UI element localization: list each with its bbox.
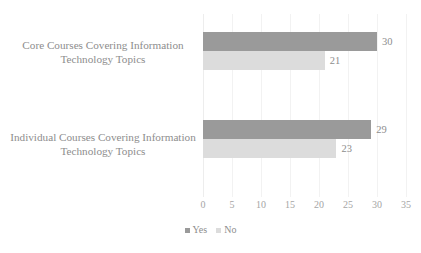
x-tick-label-25: 25 — [343, 198, 353, 211]
bar-chart: Core Courses Covering Information Techno… — [0, 0, 421, 253]
bar-value-yes-core-courses: 30 — [382, 32, 393, 51]
bar-value-no-core-courses: 21 — [330, 51, 341, 70]
category-label-individual-courses: Individual Courses Covering Information … — [8, 130, 198, 158]
x-tick-label-35: 35 — [401, 198, 411, 211]
x-tick-label-30: 30 — [372, 198, 382, 211]
x-tick-label-5: 5 — [230, 198, 235, 211]
legend-label-yes: Yes — [193, 224, 208, 236]
legend-label-no: No — [224, 224, 236, 236]
legend-item-yes[interactable]: Yes — [185, 224, 208, 236]
bar-yes-core-courses[interactable] — [203, 32, 377, 51]
legend-item-no[interactable]: No — [216, 224, 236, 236]
gridline-30 — [377, 14, 378, 197]
x-axis: 05101520253035 — [203, 198, 406, 212]
x-tick-label-20: 20 — [314, 198, 324, 211]
bar-value-no-individual-courses: 23 — [341, 139, 352, 158]
plot-area: 30 21 29 23 — [203, 14, 406, 197]
x-tick-label-0: 0 — [201, 198, 206, 211]
category-label-core-courses: Core Courses Covering Information Techno… — [8, 38, 198, 66]
legend: YesNo — [0, 224, 421, 236]
bar-no-individual-courses[interactable] — [203, 139, 336, 158]
legend-swatch-no-icon — [216, 228, 221, 233]
bar-no-core-courses[interactable] — [203, 51, 325, 70]
gridline-35 — [406, 14, 407, 197]
x-tick-label-10: 10 — [256, 198, 266, 211]
bar-yes-individual-courses[interactable] — [203, 120, 371, 139]
legend-swatch-yes-icon — [185, 228, 190, 233]
bar-value-yes-individual-courses: 29 — [376, 120, 387, 139]
x-tick-label-15: 15 — [285, 198, 295, 211]
